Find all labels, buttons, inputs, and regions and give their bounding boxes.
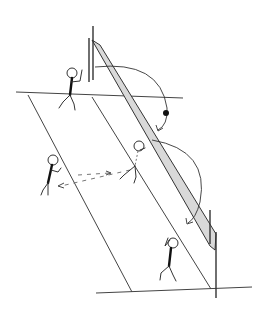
pass-path-forward [78, 173, 110, 175]
left-sideline [28, 95, 132, 292]
net [92, 40, 216, 250]
attack-line [92, 97, 211, 289]
arrow-head-icon [156, 125, 163, 131]
volleyball-ball [163, 110, 169, 116]
player-left [41, 155, 61, 195]
arrow-head-icon [58, 183, 64, 188]
far-baseline [16, 92, 183, 98]
volleyball-court-diagram [0, 0, 268, 312]
player-bottom [160, 238, 178, 281]
player-head [48, 155, 58, 165]
near-baseline [96, 287, 252, 293]
player-head [168, 238, 178, 248]
player-head [67, 68, 77, 78]
player-top-left [59, 68, 82, 110]
